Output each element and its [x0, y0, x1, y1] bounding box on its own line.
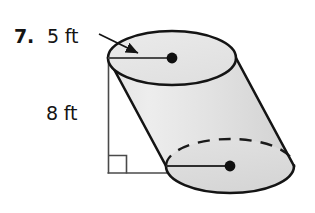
height-dimension-label: 8 ft	[46, 104, 77, 123]
radius-dimension-label: 5 ft	[47, 27, 78, 46]
problem-number-label: 7.	[14, 27, 34, 46]
geometry-figure: 7. 5 ft 8 ft	[0, 0, 315, 213]
top-center-dot	[167, 53, 178, 64]
bottom-center-dot	[225, 161, 236, 172]
right-angle-marker	[109, 156, 127, 174]
